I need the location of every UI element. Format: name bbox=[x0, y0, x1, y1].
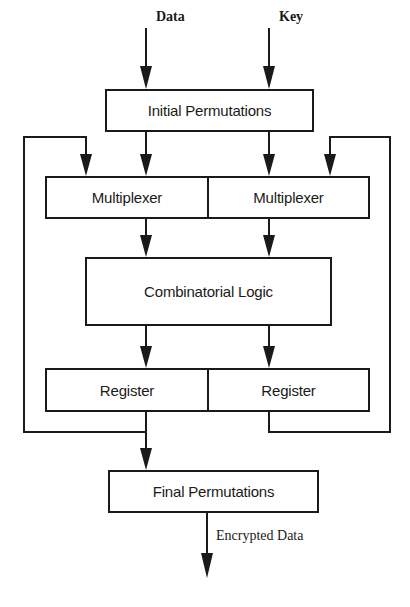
mux-left-to-logic-arrow bbox=[140, 218, 152, 257]
data-input-arrow bbox=[140, 28, 152, 89]
data-input-label: Data bbox=[156, 9, 185, 25]
key-input-arrow bbox=[263, 28, 275, 89]
des-block-diagram: Data Key Initial Permutations Multiplexe… bbox=[0, 0, 410, 607]
combinatorial-logic-label: Combinatorial Logic bbox=[144, 283, 273, 300]
multiplexer-right-label: Multiplexer bbox=[253, 189, 323, 206]
multiplexer-left-block: Multiplexer bbox=[45, 176, 209, 219]
multiplexer-left-label: Multiplexer bbox=[92, 189, 162, 206]
register-left-block: Register bbox=[45, 368, 209, 412]
ip-to-mux-right-arrow bbox=[263, 131, 275, 176]
combinatorial-logic-block: Combinatorial Logic bbox=[85, 257, 332, 326]
logic-to-reg-left-arrow bbox=[140, 325, 152, 368]
register-left-label: Register bbox=[100, 382, 154, 399]
final-permutations-label: Final Permutations bbox=[153, 483, 274, 500]
initial-permutations-block: Initial Permutations bbox=[105, 89, 314, 132]
final-permutations-block: Final Permutations bbox=[108, 470, 319, 513]
register-right-label: Register bbox=[261, 382, 315, 399]
encrypted-data-label: Encrypted Data bbox=[216, 528, 303, 544]
mux-right-to-logic-arrow bbox=[263, 218, 275, 257]
initial-permutations-label: Initial Permutations bbox=[148, 102, 272, 119]
ip-to-mux-left-arrow bbox=[140, 131, 152, 176]
multiplexer-right-block: Multiplexer bbox=[207, 176, 370, 219]
logic-to-reg-right-arrow bbox=[263, 325, 275, 368]
reg-to-final-arrow bbox=[140, 411, 152, 470]
register-right-block: Register bbox=[207, 368, 370, 412]
encrypted-output-arrow bbox=[201, 512, 213, 578]
key-input-label: Key bbox=[279, 9, 303, 25]
